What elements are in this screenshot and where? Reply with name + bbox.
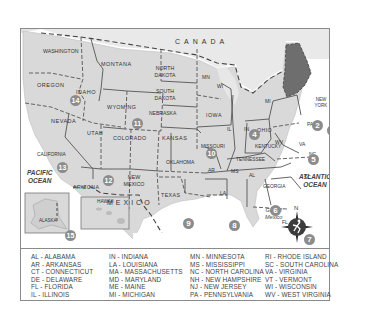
region-badge-6: 6 xyxy=(270,205,281,216)
state-label: SOUTHDAKOTA xyxy=(151,88,179,101)
region-badge-11: 11 xyxy=(132,118,143,129)
legend-item: MS - MISSISSIPPI xyxy=(190,261,264,269)
legend-item: VT - VERMONT xyxy=(265,276,338,284)
state-label: COLORADO xyxy=(113,135,147,141)
state-label: NEWYORK xyxy=(311,97,329,108)
legend-item: PA - PENNSYLVANIA xyxy=(190,291,264,299)
legend-item: NJ - NEW JERSEY xyxy=(190,283,264,291)
state-label: IN xyxy=(244,126,249,132)
state-label: WV xyxy=(275,139,283,145)
state-label: IOWA xyxy=(206,112,222,118)
legend-item: VA - VIRGINIA xyxy=(265,268,338,276)
state-label: OREGON xyxy=(37,82,64,88)
state-label: TENNESSEE xyxy=(236,157,265,162)
region-badge-15: 15 xyxy=(65,230,76,241)
legend-item: CT - CONNECTICUT xyxy=(31,268,93,276)
state-label: FL xyxy=(282,219,288,225)
state-label: UTAH xyxy=(87,130,103,136)
legend-item: MI - MICHIGAN xyxy=(109,291,183,299)
legend-item: DE - DELAWARE xyxy=(31,276,93,284)
legend-item: ME - MAINE xyxy=(109,283,183,291)
state-label: NORTHDAKOTA xyxy=(151,65,179,78)
legend-item: SC - SOUTH CAROLINA xyxy=(265,261,338,269)
state-label: MONTANA xyxy=(101,61,132,67)
state-label: ARIZONA xyxy=(73,184,99,190)
state-label: MI xyxy=(265,98,271,104)
state-label: KANSAS xyxy=(162,135,187,141)
state-label: VA xyxy=(299,141,305,147)
region-badge-10: 10 xyxy=(206,148,217,159)
state-label: IDAHO xyxy=(76,89,96,95)
state-label: WI xyxy=(217,83,223,89)
legend-item: LA - LOUISIANA xyxy=(109,261,183,269)
legend-column-2: IN - INDIANA LA - LOUISIANA MA - MASSACH… xyxy=(109,253,183,299)
canada-label: CANADA xyxy=(175,38,228,45)
region-badge-7: 7 xyxy=(304,234,315,245)
state-label: CALIFORNIA xyxy=(37,152,66,157)
region-badge-13: 13 xyxy=(57,162,68,173)
region-badge-8: 8 xyxy=(229,220,240,231)
legend-column-1: AL - ALABAMA AR - ARKANSAS CT - CONNECTI… xyxy=(31,253,93,299)
region-badge-2: 2 xyxy=(312,120,323,131)
state-label: ALASKA xyxy=(39,218,57,223)
region-badge-12: 12 xyxy=(103,175,114,186)
state-label: TEXAS xyxy=(161,192,180,198)
state-label: HAWAII xyxy=(97,199,114,204)
legend-item: WV - WEST VIRGINIA xyxy=(265,291,338,299)
legend-item: AR - ARKANSAS xyxy=(31,261,93,269)
us-region-map: CANADA MEXICO PACIFIC OCEAN ATLANTIC OCE… xyxy=(21,29,329,248)
legend-item: IN - INDIANA xyxy=(109,253,183,261)
state-label: WYOMING xyxy=(107,104,136,110)
region-badge-14: 14 xyxy=(70,95,81,106)
state-label: NEBRASKA xyxy=(149,110,176,116)
map-frame: CANADA MEXICO PACIFIC OCEAN ATLANTIC OCE… xyxy=(20,28,330,301)
pacific-ocean-label: PACIFIC OCEAN xyxy=(27,169,53,185)
state-label: WASHINGTON xyxy=(43,48,78,54)
region-badge-1: 1 xyxy=(327,125,329,136)
mexico-label: MEXICO xyxy=(107,199,153,206)
state-label: GEORGIA xyxy=(263,184,285,189)
state-label: IL xyxy=(227,126,231,132)
state-label: OKLAHOMA xyxy=(166,159,194,165)
legend-item: NC - NORTH CAROLINA xyxy=(190,268,264,276)
state-label: SC xyxy=(304,174,311,180)
state-label: AL xyxy=(249,172,255,178)
legend-item: IL - ILLINOIS xyxy=(31,291,93,299)
state-label: AR xyxy=(208,167,215,173)
region-badge-5: 5 xyxy=(308,154,319,165)
state-label: LA xyxy=(220,190,226,196)
legend-item: WI - WISCONSIN xyxy=(265,283,338,291)
legend-item: NH - NEW HAMPSHIRE xyxy=(190,276,264,284)
legend-item: MA - MASSACHUSETTS xyxy=(109,268,183,276)
state-label: NEWMEXICO xyxy=(116,174,152,187)
state-label: NEVADA xyxy=(51,118,76,124)
compass-north-label: N xyxy=(294,205,298,211)
legend-item: AL - ALABAMA xyxy=(31,253,93,261)
region-badge-4: 4 xyxy=(249,129,260,140)
legend-column-3: MN - MINNESOTA MS - MISSISSIPPI NC - NOR… xyxy=(190,253,264,299)
region-badge-9: 9 xyxy=(183,218,194,229)
legend-item: MN - MINNESOTA xyxy=(190,253,264,261)
state-label: MS xyxy=(231,168,239,174)
legend-item: RI - RHODE ISLAND xyxy=(265,253,338,261)
legend-column-4: RI - RHODE ISLAND SC - SOUTH CAROLINA VA… xyxy=(265,253,338,299)
legend-item: MD - MARYLAND xyxy=(109,276,183,284)
state-abbreviation-legend: AL - ALABAMA AR - ARKANSAS CT - CONNECTI… xyxy=(21,248,329,300)
legend-item: FL - FLORIDA xyxy=(31,283,93,291)
state-label: MN xyxy=(202,74,210,80)
